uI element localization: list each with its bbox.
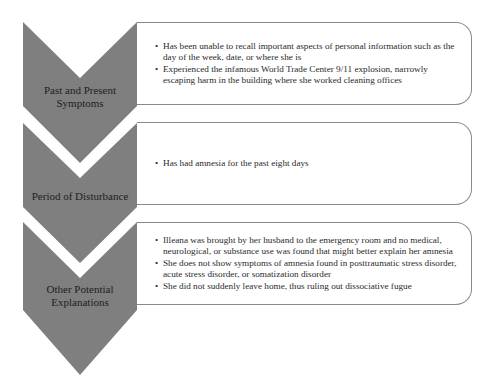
stage-1-label: Past and Present Symptoms <box>23 84 137 110</box>
stage-1-bullet-list: Has been unable to recall important aspe… <box>137 41 471 87</box>
bullet-item: Illeana was brought by her husband to th… <box>155 235 461 258</box>
stage-3-label-line-1: Other Potential <box>23 283 137 296</box>
stage-2-label-line-1: Period of Disturbance <box>23 190 137 203</box>
stage-2-details-box: Has had amnesia for the past eight days <box>137 122 472 205</box>
bullet-item: She does not show symptoms of amnesia fo… <box>155 258 461 281</box>
bullet-item: Has had amnesia for the past eight days <box>155 158 461 170</box>
stage-1-details-box: Has been unable to recall important aspe… <box>137 22 472 105</box>
bullet-item: Has been unable to recall important aspe… <box>155 41 461 64</box>
stage-1-label-line-2: Symptoms <box>23 97 137 110</box>
stage-2-label: Period of Disturbance <box>23 190 137 203</box>
stage-1-label-line-1: Past and Present <box>23 84 137 97</box>
stage-3-details-box: Illeana was brought by her husband to th… <box>137 222 472 305</box>
stage-3-bullet-list: Illeana was brought by her husband to th… <box>137 235 471 293</box>
bullet-item: Experienced the infamous World Trade Cen… <box>155 64 461 87</box>
bullet-item: She did not suddenly leave home, thus ru… <box>155 281 461 293</box>
stage-2-bullet-list: Has had amnesia for the past eight days <box>137 158 471 170</box>
stage-3-label: Other Potential Explanations <box>23 283 137 309</box>
stage-3-label-line-2: Explanations <box>23 296 137 309</box>
